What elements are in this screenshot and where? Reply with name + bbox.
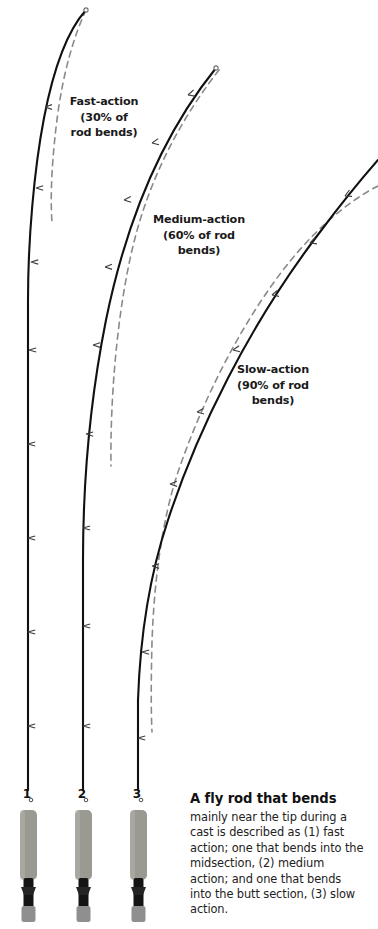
rod-2-reel-seat-ring — [76, 887, 91, 895]
rod-1-tip-top — [84, 8, 88, 12]
rod-3-guides — [138, 190, 352, 740]
rod-3-butt-cap — [132, 906, 146, 922]
rod-2-butt-cap — [77, 906, 91, 922]
caption-title: A fly rod that bends — [190, 790, 365, 807]
rod-number-3: 3 — [129, 787, 145, 801]
caption-block: A fly rod that bends mainly near the tip… — [190, 790, 365, 918]
rod-1-guides — [28, 105, 52, 728]
rod-1-fast-action — [20, 8, 88, 922]
rod-2-tip-top — [214, 66, 218, 70]
rod-3-cork-shading — [130, 810, 135, 880]
rod-1-butt-cap — [22, 906, 36, 922]
rod-1-cork-shading — [20, 810, 25, 880]
rod-2-guides — [83, 90, 195, 728]
fly-rod-action-figure: Fast-action (30% of rod bends) Medium-ac… — [0, 0, 378, 929]
rod-3-fly-line — [151, 186, 378, 732]
rod-2-cork-shading — [75, 810, 80, 880]
caption-body: mainly near the tip during a cast is des… — [190, 810, 365, 918]
label-fast-action: Fast-action (30% of rod bends) — [52, 94, 156, 141]
rod-3-reel-seat-ring — [131, 887, 146, 895]
label-slow-action: Slow-action (90% of rod bends) — [218, 362, 328, 409]
rod-2-blank — [83, 68, 216, 790]
label-medium-action: Medium-action (60% of rod bends) — [140, 212, 258, 259]
rod-number-1: 1 — [19, 787, 35, 801]
rod-1-reel-seat-ring — [21, 887, 36, 895]
rod-number-2: 2 — [74, 787, 90, 801]
